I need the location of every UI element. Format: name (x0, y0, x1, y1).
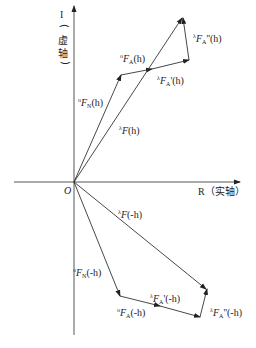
label-Fl-mh: λF(-h) (118, 209, 142, 221)
label-FlA2-mh: λFA''(-h) (210, 307, 242, 319)
label-FlA1-h: λFA'(h) (157, 75, 184, 87)
imaginary-axis-label: I ( 虚 轴 ) (58, 9, 71, 65)
vector-Fl-h (74, 18, 182, 182)
argand-diagram: I ( 虚 轴 ) R（实轴） O oFN(h) oFA(h) λFA'(h) … (0, 0, 256, 348)
vector-FlA2-mh (200, 289, 207, 317)
origin-label: O (64, 185, 71, 196)
paren-close: ) (60, 61, 71, 65)
imaginary-cn-1: 虚 (58, 35, 68, 46)
label-F0A-mh: oFA(-h) (117, 307, 145, 319)
vector-F0N-h (74, 75, 121, 182)
vector-F0N-mh (74, 182, 120, 296)
label-F0N-h: oFN(h) (78, 97, 103, 109)
paren-open: ( (59, 24, 70, 28)
vector-FlA2-h (183, 18, 189, 60)
label-FlA1-mh: λFA'(-h) (150, 293, 180, 305)
label-FlA2-h: λFA''(h) (193, 33, 222, 45)
vectors-minus-h (74, 182, 207, 317)
imaginary-axis-symbol: I (60, 9, 63, 20)
label-Fl-h: λF(h) (119, 125, 140, 137)
real-axis-label: R（实轴） (198, 185, 245, 197)
vector-FlA1-h (152, 60, 189, 69)
imaginary-cn-2: 轴 (58, 47, 68, 59)
vector-FlA1-mh (160, 306, 200, 317)
label-F0A-h: oFA(h) (120, 53, 145, 65)
label-F0N-mh: oFN(-h) (73, 267, 101, 279)
